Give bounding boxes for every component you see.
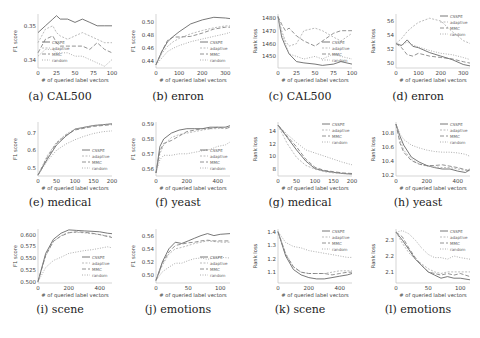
- x-axis-label: # of queried label vectors: [41, 77, 109, 84]
- legend-label: MMC: [210, 160, 220, 165]
- line-chart: 0501001502000.50.60.7# of queried label …: [0, 108, 120, 200]
- x-tick-label: 75: [330, 70, 337, 76]
- legend: CSSPEadaptiveMMCrandom: [82, 148, 110, 171]
- y-axis-label: F1 score: [130, 245, 136, 267]
- legend-label: adaptive: [332, 235, 350, 240]
- y-axis-label: Rank loss: [252, 243, 258, 268]
- y-tick-label: 0.5: [27, 165, 36, 171]
- legend: CSSPEadaptiveMMCrandom: [440, 122, 468, 145]
- line-chart: 02004000.5000.5250.5500.5750.600# of que…: [0, 215, 120, 307]
- panel-caption: (c) CAL500: [240, 90, 360, 103]
- panel-j: 0501000.500.520.540.56# of queried label…: [118, 215, 238, 323]
- y-tick-label: 1.4: [267, 229, 276, 235]
- y-tick-label: 10.6: [382, 144, 395, 150]
- series-line-csspe: [38, 16, 112, 33]
- x-tick-label: 200: [182, 178, 193, 184]
- legend-label: MMC: [52, 52, 62, 57]
- y-tick-label: 0.48: [142, 32, 155, 38]
- y-tick-label: 1470: [262, 28, 276, 34]
- line-chart: 0501002.12.22.3# of queried label vector…: [358, 215, 478, 307]
- legend: CSSPEadaptiveMMCrandom: [42, 40, 70, 63]
- y-tick-label: 1.1: [267, 269, 276, 275]
- y-tick-label: 0.52: [142, 259, 154, 265]
- legend-label: CSSPE: [210, 40, 223, 45]
- legend-label: random: [332, 140, 348, 145]
- y-axis-label: F1 score: [130, 30, 136, 52]
- x-tick-label: 0: [276, 178, 280, 184]
- y-tick-label: 1460: [262, 41, 276, 47]
- y-axis-label: F1 score: [130, 138, 136, 160]
- x-tick-label: 100: [347, 70, 358, 76]
- panel-caption: (b) enron: [118, 90, 238, 103]
- panel-b: 01002003000.440.460.480.50# of queried l…: [118, 0, 238, 108]
- x-tick-label: 0: [36, 178, 40, 184]
- line-chart: 010020030050525456# of queried label vec…: [358, 0, 478, 92]
- y-tick-label: 52: [387, 46, 394, 52]
- x-tick-label: 200: [347, 178, 358, 184]
- panel-caption: (l) emotions: [358, 303, 478, 316]
- y-tick-label: 1480: [262, 15, 276, 21]
- y-tick-label: 2.1: [385, 269, 394, 275]
- legend-label: random: [210, 166, 226, 171]
- legend-label: adaptive: [450, 128, 468, 133]
- panel-caption: (f) yeast: [118, 196, 238, 209]
- panel-g: 0501001502008101214# of queried label ve…: [240, 108, 360, 216]
- x-tick-label: 200: [436, 70, 447, 76]
- x-tick-label: 50: [312, 70, 319, 76]
- y-tick-label: 0.6: [27, 147, 36, 153]
- x-tick-label: 200: [304, 285, 315, 291]
- series-line-csspe: [396, 40, 470, 66]
- y-tick-label: 0.56: [142, 166, 155, 172]
- legend-label: adaptive: [450, 235, 468, 240]
- legend-label: adaptive: [92, 154, 110, 159]
- line-chart: 02550751000.340.35# of queried label vec…: [0, 0, 120, 92]
- y-axis-label: Rank loss: [252, 28, 258, 53]
- x-tick-label: 50: [425, 285, 432, 291]
- legend-label: adaptive: [450, 20, 468, 25]
- y-tick-label: 10.2: [382, 172, 394, 178]
- x-axis-label: # of queried label vectors: [281, 77, 349, 84]
- legend-label: CSSPE: [450, 122, 463, 127]
- panel-i: 02004000.5000.5250.5500.5750.600# of que…: [0, 215, 120, 323]
- legend-label: MMC: [210, 52, 220, 57]
- figure-grid: 02550751000.340.35# of queried label vec…: [0, 0, 480, 338]
- panel-caption: (a) CAL500: [0, 90, 120, 103]
- x-tick-label: 0: [154, 285, 158, 291]
- legend-label: MMC: [332, 241, 342, 246]
- legend-label: random: [210, 58, 226, 63]
- x-axis-label: # of queried label vectors: [281, 185, 349, 192]
- y-tick-label: 0.58: [142, 136, 155, 142]
- y-tick-label: 1450: [262, 53, 276, 59]
- y-axis-label: Rank loss: [370, 243, 376, 268]
- y-tick-label: 8: [273, 166, 277, 172]
- x-tick-label: 100: [174, 70, 185, 76]
- x-tick-label: 200: [197, 70, 208, 76]
- legend-label: CSSPE: [332, 229, 345, 234]
- y-tick-label: 0.46: [142, 45, 155, 51]
- line-chart: 01002003000.440.460.480.50# of queried l…: [118, 0, 238, 92]
- y-tick-label: 0.35: [24, 23, 37, 29]
- x-tick-label: 100: [310, 178, 321, 184]
- y-tick-label: 10.8: [382, 130, 395, 136]
- legend-label: MMC: [332, 134, 342, 139]
- legend: CSSPEadaptiveMMCrandom: [200, 40, 228, 63]
- legend: CSSPEadaptiveMMCrandom: [440, 14, 468, 37]
- legend-label: adaptive: [332, 46, 350, 51]
- y-tick-label: 2.2: [385, 253, 394, 259]
- line-chart: 020040010.210.410.610.8# of queried labe…: [358, 108, 478, 200]
- panel-f: 02004000.560.570.580.59# of queried labe…: [118, 108, 238, 216]
- x-tick-label: 200: [107, 178, 118, 184]
- y-axis-label: Rank loss: [370, 28, 376, 53]
- y-axis-label: F1 score: [12, 245, 18, 267]
- line-chart: 02004001.11.21.31.4# of queried label ve…: [240, 215, 360, 307]
- panel-caption: (e) medical: [0, 196, 120, 209]
- y-tick-label: 0.54: [142, 246, 155, 252]
- panel-caption: (i) scene: [0, 303, 120, 316]
- y-tick-label: 2.3: [385, 237, 394, 243]
- x-tick-label: 50: [72, 70, 79, 76]
- legend-label: random: [332, 58, 348, 63]
- legend: CSSPEadaptiveMMCrandom: [322, 40, 350, 63]
- legend-label: CSSPE: [52, 40, 65, 45]
- panel-c: 02550751001450146014701480# of queried l…: [240, 0, 360, 108]
- line-chart: 0501001502008101214# of queried label ve…: [240, 108, 360, 200]
